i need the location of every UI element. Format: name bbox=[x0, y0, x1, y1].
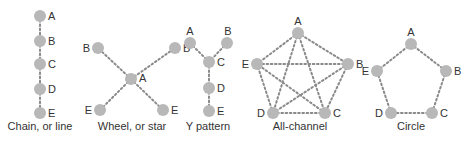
edge-a-b bbox=[298, 33, 348, 64]
node-e bbox=[94, 104, 106, 116]
edge-c-e bbox=[257, 64, 325, 113]
edge-e-a bbox=[377, 44, 411, 71]
network-caption: Chain, or line bbox=[8, 120, 73, 132]
node-c bbox=[34, 58, 46, 70]
node-d bbox=[203, 82, 215, 94]
node-b bbox=[440, 65, 452, 77]
node-c bbox=[203, 56, 215, 68]
node-label: E bbox=[171, 104, 178, 116]
node-b bbox=[92, 42, 104, 54]
node-c bbox=[319, 107, 331, 119]
network-chain: ABCDEChain, or line bbox=[8, 10, 73, 132]
node-label: D bbox=[375, 107, 383, 119]
node-label: B bbox=[454, 65, 461, 77]
node-c bbox=[426, 107, 438, 119]
node-label: E bbox=[85, 104, 92, 116]
edge-d-e bbox=[257, 64, 273, 113]
edge-a-d bbox=[273, 33, 298, 113]
node-label: C bbox=[333, 107, 341, 119]
node-a bbox=[34, 10, 46, 22]
node-label: C bbox=[48, 58, 56, 70]
node-e bbox=[157, 104, 169, 116]
node-e bbox=[34, 107, 46, 119]
edge-a-e bbox=[257, 33, 298, 64]
edge-a-e bbox=[131, 79, 163, 110]
node-a bbox=[292, 27, 304, 39]
node-label: A bbox=[407, 26, 415, 38]
edge-a-b bbox=[131, 48, 175, 79]
node-a bbox=[405, 38, 417, 50]
node-label: E bbox=[242, 58, 249, 70]
node-a bbox=[125, 73, 137, 85]
node-b bbox=[34, 35, 46, 47]
node-label: B bbox=[83, 42, 90, 54]
edge-a-b bbox=[98, 48, 131, 79]
node-e bbox=[203, 105, 215, 117]
node-label: C bbox=[440, 107, 448, 119]
network-caption: Y pattern bbox=[186, 120, 230, 132]
node-label: A bbox=[139, 72, 147, 84]
communication-networks-diagram: ABCDEChain, or lineABBEEWheel, or starAB… bbox=[0, 0, 472, 141]
node-d bbox=[267, 107, 279, 119]
node-d bbox=[34, 83, 46, 95]
node-d bbox=[385, 107, 397, 119]
network-caption: Circle bbox=[397, 120, 425, 132]
edge-a-b bbox=[411, 44, 446, 71]
network-y-pattern: ABCDEY pattern bbox=[184, 25, 233, 132]
node-b bbox=[221, 37, 233, 49]
network-all-channel: ABCDEAll-channel bbox=[242, 15, 364, 132]
node-label: E bbox=[217, 105, 224, 117]
edge-a-e bbox=[100, 79, 131, 110]
node-a bbox=[184, 37, 196, 49]
network-caption: All-channel bbox=[273, 120, 327, 132]
node-label: E bbox=[362, 65, 369, 77]
node-label: E bbox=[48, 107, 55, 119]
node-label: A bbox=[186, 25, 194, 37]
node-e bbox=[371, 65, 383, 77]
node-label: B bbox=[48, 35, 55, 47]
edge-a-c bbox=[298, 33, 325, 113]
node-b bbox=[169, 42, 181, 54]
node-e bbox=[251, 58, 263, 70]
networks-svg: ABCDEChain, or lineABBEEWheel, or starAB… bbox=[0, 0, 472, 141]
network-wheel: ABBEEWheel, or star bbox=[83, 42, 191, 132]
node-label: D bbox=[48, 83, 56, 95]
node-label: D bbox=[217, 82, 225, 94]
node-label: A bbox=[48, 10, 56, 22]
node-label: D bbox=[257, 107, 265, 119]
network-caption: Wheel, or star bbox=[98, 120, 167, 132]
network-circle: ABCDECircle bbox=[362, 26, 462, 132]
node-label: A bbox=[294, 15, 302, 27]
node-b bbox=[342, 58, 354, 70]
node-label: C bbox=[217, 56, 225, 68]
node-label: B bbox=[224, 25, 231, 37]
